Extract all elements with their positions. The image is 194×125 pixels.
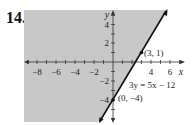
- point-label-0-neg4: (0, −4): [118, 93, 143, 103]
- x-tick-label: 4: [149, 67, 154, 77]
- x-axis-arrow-right: [180, 60, 185, 64]
- graph: −8 −6 −4 −2 4 6 x 4 2 −2 −4 y (3, 1) (0,…: [0, 0, 194, 125]
- y-axis-label: y: [104, 9, 110, 20]
- x-tick-label: −2: [89, 67, 99, 77]
- shaded-region: [24, 10, 167, 122]
- point-0-neg4: [111, 98, 115, 102]
- x-tick-label: −4: [70, 67, 80, 77]
- x-axis-label: x: [178, 66, 184, 77]
- x-tick-label: −6: [51, 67, 61, 77]
- point-3-1: [140, 51, 144, 55]
- y-tick-label: 2: [105, 38, 110, 48]
- x-tick-label: −8: [32, 67, 42, 77]
- y-tick-label: 4: [105, 20, 110, 30]
- equation-label: 3y = 5x − 12: [129, 80, 175, 90]
- point-label-3-1: (3, 1): [144, 48, 164, 58]
- y-tick-label: −4: [99, 95, 109, 105]
- y-tick-label: −2: [99, 76, 109, 86]
- x-tick-label: 6: [168, 67, 173, 77]
